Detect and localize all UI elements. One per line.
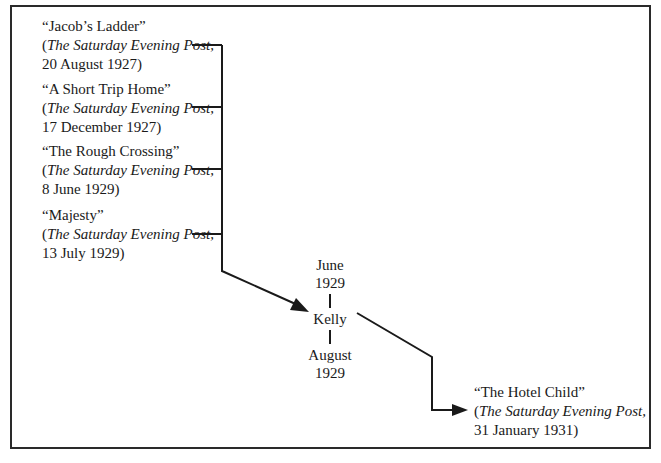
story-publication: (The Saturday Evening Post, [42, 225, 214, 244]
story-publication: (The Saturday Evening Post, [474, 402, 646, 421]
timeline-bar-top [329, 294, 331, 308]
story-date: 8 June 1929) [42, 180, 214, 199]
story-date: 31 January 1931) [474, 421, 646, 440]
story-date: 20 August 1927) [42, 55, 214, 74]
story-publication: (The Saturday Evening Post, [42, 161, 214, 180]
story-title: “The Rough Crossing” [42, 142, 214, 161]
source-story-majesty: “Majesty” (The Saturday Evening Post, 13… [42, 206, 214, 263]
start-year: 1929 [300, 274, 360, 292]
story-publication: (The Saturday Evening Post, [42, 36, 214, 55]
story-date: 13 July 1929) [42, 244, 214, 263]
timeline-bar-bottom [329, 330, 331, 344]
start-month: June [300, 256, 360, 274]
story-title: “The Hotel Child” [474, 383, 646, 402]
story-title: “Majesty” [42, 206, 214, 225]
source-story-short-trip-home: “A Short Trip Home” (The Saturday Evenin… [42, 80, 214, 137]
end-year: 1929 [300, 364, 360, 382]
source-story-jacobs-ladder: “Jacob’s Ladder” (The Saturday Evening P… [42, 17, 214, 74]
story-title: “Jacob’s Ladder” [42, 17, 214, 36]
arrowhead-to-hotel-child [452, 404, 468, 416]
output-line [357, 313, 455, 410]
result-story-hotel-child: “The Hotel Child” (The Saturday Evening … [474, 383, 646, 440]
merge-line [222, 45, 300, 306]
story-publication: (The Saturday Evening Post, [42, 99, 214, 118]
kelly-label: Kelly [300, 310, 360, 328]
end-month: August [300, 346, 360, 364]
intermediate-kelly: June 1929 Kelly August 1929 [300, 256, 360, 382]
story-date: 17 December 1927) [42, 118, 214, 137]
story-title: “A Short Trip Home” [42, 80, 214, 99]
source-story-rough-crossing: “The Rough Crossing” (The Saturday Eveni… [42, 142, 214, 199]
